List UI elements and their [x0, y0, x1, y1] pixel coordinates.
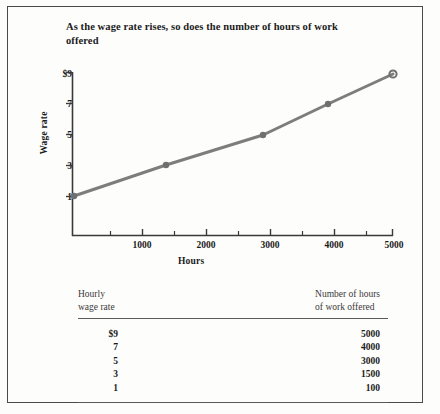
cell-wage-rate: 1: [78, 382, 118, 395]
labor-supply-line: [74, 74, 393, 196]
cell-hours: 3000: [334, 355, 380, 368]
cell-wage-rate: $9: [78, 328, 118, 341]
table-header-hours: Number of hours of work offered: [315, 288, 380, 313]
cell-hours: 100: [334, 382, 380, 395]
cell-hours: 1500: [334, 368, 380, 381]
table-bottom-rule: [78, 402, 388, 403]
cell-wage-rate: 5: [78, 355, 118, 368]
cell-hours: 4000: [334, 341, 380, 354]
data-point-3: [260, 132, 266, 138]
cell-wage-rate: 3: [78, 368, 118, 381]
data-point-1: [71, 193, 77, 199]
table-row: 1 100: [78, 382, 388, 395]
data-table: Hourly wage rate Number of hours of work…: [78, 288, 388, 403]
table-header-row: Hourly wage rate Number of hours of work…: [78, 288, 388, 318]
table-header-hours-line2: of work offered: [315, 301, 380, 314]
data-point-2: [163, 162, 169, 168]
table-header-wage-line2: wage rate: [78, 301, 115, 314]
table-row: 3 1500: [78, 368, 388, 381]
table-body: $9 5000 7 4000 5 3000 3 1500 1 100: [78, 328, 388, 395]
table-header-wage-line1: Hourly: [78, 288, 115, 301]
cell-hours: 5000: [334, 328, 380, 341]
table-row: $9 5000: [78, 328, 388, 341]
table-header-hours-line1: Number of hours: [315, 288, 380, 301]
data-point-4: [325, 101, 331, 107]
table-header-rule: [78, 318, 388, 319]
cell-wage-rate: 7: [78, 341, 118, 354]
y-axis-ticks: [66, 73, 72, 197]
table-header-wage: Hourly wage rate: [78, 288, 115, 313]
figure-page: As the wage rate rises, so does the numb…: [0, 0, 440, 414]
table-row: 7 4000: [78, 341, 388, 354]
table-row: 5 3000: [78, 355, 388, 368]
